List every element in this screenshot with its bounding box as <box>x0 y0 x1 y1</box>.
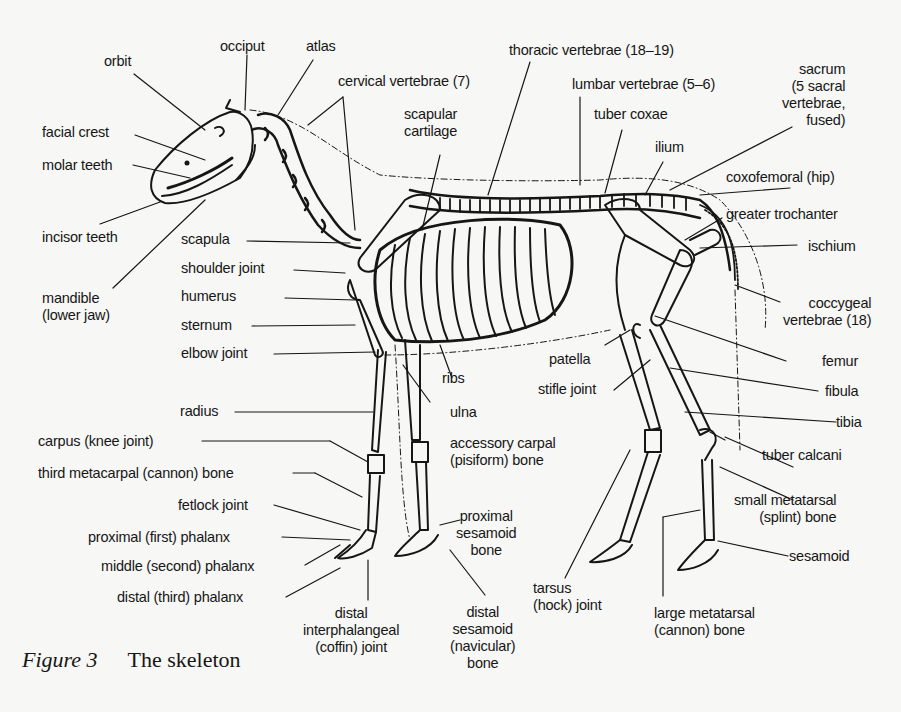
label-accessory-carpal: accessory carpal (pisiform) bone <box>450 435 556 469</box>
skeleton-figure: orbit occiput atlas cervical vertebrae (… <box>0 0 901 712</box>
label-facial-crest: facial crest <box>42 124 109 141</box>
label-distal-phalanx: distal (third) phalanx <box>117 589 243 606</box>
label-proximal-sesamoid: proximal sesamoid bone <box>456 508 516 559</box>
label-carpus-knee-joint: carpus (knee joint) <box>38 433 153 450</box>
label-distal-interphalangeal: distal interphalangeal (coffin) joint <box>303 605 399 656</box>
label-coccygeal-vertebrae: coccygeal vertebrae (18) <box>783 295 871 329</box>
cervical-vertebrae <box>252 113 360 248</box>
label-lumbar-vertebrae: lumbar vertebrae (5–6) <box>572 76 715 93</box>
ribcage <box>375 219 572 342</box>
label-ilium: ilium <box>655 139 684 156</box>
figure-number: Figure 3 <box>22 647 98 672</box>
label-ribs: ribs <box>442 370 465 387</box>
label-patella: patella <box>549 351 590 368</box>
label-sacrum: sacrum (5 sacral vertebrae, fused) <box>782 61 845 129</box>
far-hindleg <box>590 235 661 562</box>
near-hindleg <box>633 250 718 570</box>
label-scapula: scapula <box>181 231 230 248</box>
label-atlas: atlas <box>306 38 336 55</box>
label-fetlock-joint: fetlock joint <box>178 497 248 514</box>
label-ulna: ulna <box>450 404 477 421</box>
label-fibula: fibula <box>825 383 858 400</box>
label-cervical-vertebrae: cervical vertebrae (7) <box>338 73 470 90</box>
label-sternum: sternum <box>181 317 232 334</box>
label-middle-phalanx: middle (second) phalanx <box>101 558 254 575</box>
label-shoulder-joint: shoulder joint <box>181 260 264 277</box>
figure-title: The skeleton <box>128 647 241 672</box>
label-small-metatarsal: small metatarsal (splint) bone <box>734 492 836 526</box>
far-foreleg <box>395 340 438 556</box>
skull <box>151 100 255 203</box>
spine <box>410 190 730 270</box>
label-large-metatarsal: large metatarsal (cannon) bone <box>654 605 755 639</box>
label-stifle-joint: stifle joint <box>538 381 596 398</box>
label-tuber-coxae: tuber coxae <box>594 106 668 123</box>
label-greater-trochanter: greater trochanter <box>726 206 838 223</box>
near-foreleg <box>335 280 386 559</box>
label-incisor-teeth: incisor teeth <box>42 229 118 246</box>
label-thoracic-vertebrae: thoracic vertebrae (18–19) <box>509 42 674 59</box>
label-scapular-cartilage: scapular cartilage <box>404 106 457 140</box>
label-proximal-phalanx: proximal (first) phalanx <box>88 529 230 546</box>
label-occiput: occiput <box>220 38 265 55</box>
label-mandible: mandible (lower jaw) <box>42 290 110 324</box>
label-tarsus-hock-joint: tarsus (hock) joint <box>533 580 602 614</box>
label-tuber-calcani: tuber calcani <box>762 447 842 464</box>
label-femur: femur <box>822 353 858 370</box>
label-radius: radius <box>180 403 218 420</box>
label-third-metacarpal: third metacarpal (cannon) bone <box>38 465 234 482</box>
figure-caption: Figure 3The skeleton <box>22 647 241 673</box>
label-distal-sesamoid: distal sesamoid (navicular) bone <box>450 604 516 672</box>
label-ischium: ischium <box>808 238 856 255</box>
label-elbow-joint: elbow joint <box>181 345 247 362</box>
label-humerus: humerus <box>181 288 236 305</box>
label-coxofemoral-hip: coxofemoral (hip) <box>726 169 835 186</box>
label-orbit: orbit <box>104 53 131 70</box>
label-molar-teeth: molar teeth <box>42 157 112 174</box>
label-tibia: tibia <box>836 414 862 431</box>
label-sesamoid: sesamoid <box>789 548 849 565</box>
